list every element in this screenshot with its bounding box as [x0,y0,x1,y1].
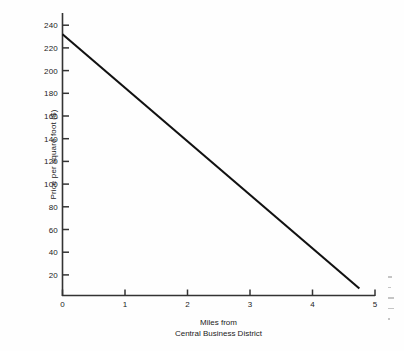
artifact-mark [388,318,390,320]
x-axis-title-line2: Central Business District [62,328,375,339]
artifact-mark [388,297,394,299]
artifact-mark [388,276,392,278]
x-axis-title-line1: Miles from [62,317,375,328]
x-axis-title: Miles from Central Business District [62,317,375,339]
artifact-mark [388,308,394,310]
x-tick-label: 4 [303,300,323,309]
x-tick-label: 5 [365,300,385,309]
x-tick-label: 1 [115,300,135,309]
data-series-group [63,34,360,288]
artifact-mark [388,287,391,289]
plot-area [0,0,404,351]
x-tick-label: 2 [178,300,198,309]
page-edge-artifact [388,276,404,338]
x-tick-label: 0 [53,300,73,309]
chart-figure: Price per square foot ($) 20406080100120… [0,0,404,351]
x-tick-label: 3 [240,300,260,309]
data-line [63,34,360,288]
x-tick-label-group: 012345 [0,300,404,314]
